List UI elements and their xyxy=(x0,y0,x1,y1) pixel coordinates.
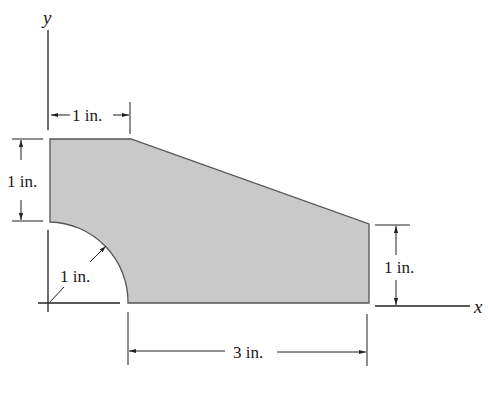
diagram-canvas: y x 1 in. 1 in. 1 in. 1 in. 3 in. xyxy=(0,0,488,399)
y-axis-label: y xyxy=(41,7,52,28)
top-width-label: 1 in. xyxy=(72,106,102,125)
radius-line xyxy=(50,287,64,302)
radius-label: 1 in. xyxy=(60,267,90,286)
x-axis-label: x xyxy=(473,296,483,317)
radius-line xyxy=(90,246,106,262)
shaded-area-shape xyxy=(50,139,369,303)
right-height-label: 1 in. xyxy=(384,258,414,277)
bottom-width-label: 3 in. xyxy=(233,343,263,362)
left-height-label: 1 in. xyxy=(7,172,37,191)
